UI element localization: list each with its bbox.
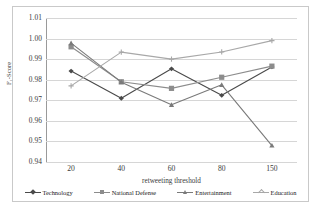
legend-label: Technology — [43, 189, 73, 196]
y-tick-label: 1.01 — [2, 13, 42, 22]
legend-swatch-icon — [25, 189, 41, 195]
legend-item-education[interactable]: Education — [253, 189, 297, 196]
data-point-marker — [219, 75, 224, 80]
x-tick-label: 40 — [101, 164, 141, 173]
chart-legend: TechnologyNational DefenseEntertainmentE… — [14, 186, 307, 198]
figure-container: 0.940.950.960.970.980.991.001.01 F₁-Scor… — [0, 0, 323, 224]
legend-swatch-icon — [94, 189, 110, 195]
legend-label: Education — [271, 189, 297, 196]
data-point-marker — [219, 49, 224, 54]
series-line — [71, 41, 272, 86]
legend-item-national-defense[interactable]: National Defense — [94, 189, 157, 196]
data-point-marker — [269, 64, 274, 69]
x-tick-label: 150 — [252, 164, 292, 173]
data-point-marker — [219, 82, 224, 87]
data-point-marker — [69, 40, 74, 45]
data-point-marker — [219, 93, 224, 98]
gridline — [46, 162, 297, 163]
data-point-marker — [169, 86, 174, 91]
legend-item-entertainment[interactable]: Entertainment — [177, 189, 231, 196]
x-tick-label: 20 — [51, 164, 91, 173]
legend-swatch-icon — [177, 189, 193, 195]
legend-swatch-icon — [253, 189, 269, 195]
figure-caption — [6, 206, 126, 220]
legend-label: Entertainment — [195, 189, 231, 196]
plot-area — [46, 18, 297, 162]
series-technology — [69, 65, 275, 101]
legend-label: National Defense — [112, 189, 157, 196]
x-axis-label: retweeting threshold — [46, 177, 297, 185]
data-point-marker — [269, 38, 274, 43]
y-tick-label: 1.00 — [2, 34, 42, 43]
series-line — [71, 67, 272, 98]
series-education — [69, 38, 275, 88]
data-point-marker — [69, 69, 74, 74]
series-layer — [46, 18, 297, 162]
data-point-marker — [169, 57, 174, 62]
x-tick-label: 80 — [202, 164, 242, 173]
y-tick-label: 0.96 — [2, 116, 42, 125]
y-tick-label: 0.94 — [2, 157, 42, 166]
x-tick-label: 60 — [152, 164, 192, 173]
y-axis-label: F₁-Score — [5, 46, 12, 102]
y-tick-label: 0.95 — [2, 136, 42, 145]
x-axis-ticks: 20406080150 — [46, 164, 297, 176]
legend-item-technology[interactable]: Technology — [25, 189, 73, 196]
